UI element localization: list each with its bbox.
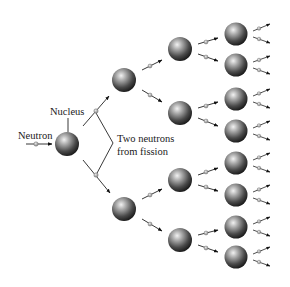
gen3-neutrons bbox=[198, 38, 218, 252]
nucleus-gen4 bbox=[225, 88, 248, 111]
nucleus-gen4 bbox=[225, 216, 248, 239]
nucleus-gen4 bbox=[225, 152, 248, 175]
nucleus-gen3 bbox=[168, 228, 192, 252]
neutron-label: Neutron bbox=[18, 130, 53, 141]
nucleus-gen2 bbox=[112, 68, 136, 92]
nucleus-gen3 bbox=[168, 37, 192, 61]
nucleus-gen4 bbox=[225, 120, 248, 143]
nucleus-label: Nucleus bbox=[50, 106, 84, 117]
nucleus-gen1 bbox=[55, 132, 79, 156]
fission-bracket bbox=[96, 113, 113, 175]
nucleus-gen4 bbox=[225, 23, 248, 46]
chain-reaction-diagram: Nucleus Neutron Two neutrons from fissio… bbox=[0, 0, 290, 287]
nucleus-gen4 bbox=[225, 184, 248, 207]
nucleus-gen3 bbox=[168, 101, 192, 125]
incoming-neutron bbox=[26, 142, 52, 146]
nucleus-gen2 bbox=[112, 197, 136, 221]
gen4-nuclei bbox=[225, 23, 248, 269]
fission-label-line1: Two neutrons bbox=[117, 133, 174, 144]
nucleus-gen4 bbox=[225, 54, 248, 77]
gen4-outgoing-neutrons bbox=[253, 24, 270, 266]
nucleus-gen3 bbox=[168, 168, 192, 192]
nucleus-gen4 bbox=[225, 246, 248, 269]
fission-label-line2: from fission bbox=[117, 146, 169, 157]
first-fission-neutrons bbox=[83, 96, 110, 193]
